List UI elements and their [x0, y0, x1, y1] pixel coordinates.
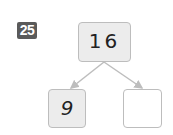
arrow-left — [71, 62, 104, 88]
part-box-left: 9 — [48, 89, 86, 128]
part-box-right-answer[interactable] — [123, 89, 162, 128]
whole-box: 16 — [78, 22, 131, 62]
arrow-right — [104, 62, 142, 88]
